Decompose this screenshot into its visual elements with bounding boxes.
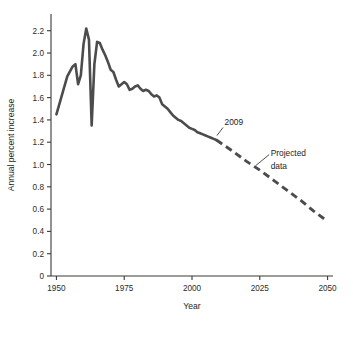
observed-series-line [56,28,216,139]
y-tick-label: 0.4 [33,227,45,236]
y-tick-label: 1.2 [33,138,45,147]
chart-container: 00.20.40.60.81.01.21.41.61.82.02.2195019… [0,0,353,337]
y-tick-label: 0.8 [33,183,45,192]
projected-data-label-2: data [271,161,288,171]
projected-data-label: Projected [271,148,307,158]
y-tick-label: 0.2 [33,250,45,259]
year-2009-leader [217,127,223,135]
y-tick-label: 1.4 [33,116,45,125]
y-tick-label: 1.8 [33,71,45,80]
line-chart: 00.20.40.60.81.01.21.41.61.82.02.2195019… [0,0,353,337]
x-tick-label: 1975 [115,284,134,293]
x-axis-title: Year [183,301,201,311]
y-tick-label: 2.0 [33,49,45,58]
y-tick-label: 1.6 [33,94,45,103]
x-tick-label: 2000 [183,284,202,293]
x-tick-label: 2050 [318,284,337,293]
y-tick-label: 2.2 [33,27,45,36]
x-tick-label: 2025 [251,284,270,293]
projected-data-leader [256,155,269,166]
y-tick-label: 1.0 [33,161,45,170]
y-tick-label: 0.6 [33,205,45,214]
y-axis-title: Annual percent increase [6,98,16,191]
y-tick-label: 0 [39,272,44,281]
x-tick-label: 1950 [47,284,66,293]
year-2009-label: 2009 [225,117,244,127]
